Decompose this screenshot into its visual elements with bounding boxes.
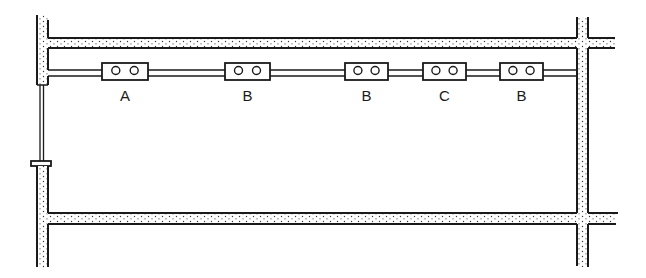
- unit-body: [500, 63, 543, 80]
- unit-c-box: C: [423, 63, 466, 104]
- unit-label: B: [242, 87, 252, 104]
- unit-label: A: [120, 87, 130, 104]
- unit-body: [345, 63, 388, 80]
- unit-label: C: [439, 87, 450, 104]
- left-duct-lower: [37, 166, 48, 268]
- units-group: ABBCB: [102, 63, 543, 104]
- port-circle-icon: [371, 67, 379, 75]
- port-circle-icon: [235, 67, 243, 75]
- unit-body: [423, 63, 466, 80]
- unit-b-box: B: [345, 63, 388, 104]
- unit-label: B: [516, 87, 526, 104]
- duct-diagram: ABBCB: [0, 0, 646, 278]
- port-circle-icon: [112, 67, 120, 75]
- pipe-flange: [31, 161, 51, 166]
- unit-body: [225, 63, 270, 80]
- unit-a-box: A: [102, 63, 148, 104]
- unit-b-box: B: [225, 63, 270, 104]
- port-circle-icon: [253, 67, 261, 75]
- unit-label: B: [361, 87, 371, 104]
- unit-body: [102, 63, 148, 80]
- port-circle-icon: [354, 67, 362, 75]
- bottom-duct: [48, 213, 618, 224]
- port-circle-icon: [432, 67, 440, 75]
- left-riser-pipe: [40, 85, 44, 162]
- port-circle-icon: [449, 67, 457, 75]
- unit-b-box: B: [500, 63, 543, 104]
- port-circle-icon: [526, 67, 534, 75]
- port-circle-icon: [130, 67, 138, 75]
- port-circle-icon: [509, 67, 517, 75]
- right-duct: [577, 17, 588, 267]
- top-duct: [48, 38, 615, 48]
- left-duct-upper: [37, 15, 48, 85]
